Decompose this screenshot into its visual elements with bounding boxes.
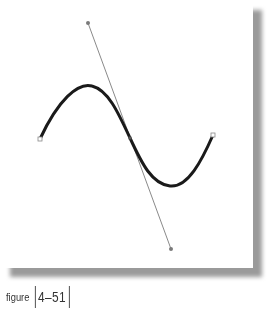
handle-point-top[interactable]: [86, 21, 90, 25]
bezier-curve: [40, 85, 213, 186]
caption-number: 4–51: [35, 289, 68, 305]
anchor-point-mid[interactable]: [129, 137, 132, 140]
figure-caption: figure 4–51: [6, 285, 69, 309]
figure-canvas: [0, 0, 253, 268]
handle-point-bottom[interactable]: [169, 247, 173, 251]
bezier-diagram: [0, 0, 253, 268]
caption-divider-right: [69, 286, 70, 308]
anchor-point-end[interactable]: [211, 133, 215, 137]
anchor-point-start[interactable]: [38, 137, 42, 141]
caption-label: figure: [6, 291, 29, 303]
